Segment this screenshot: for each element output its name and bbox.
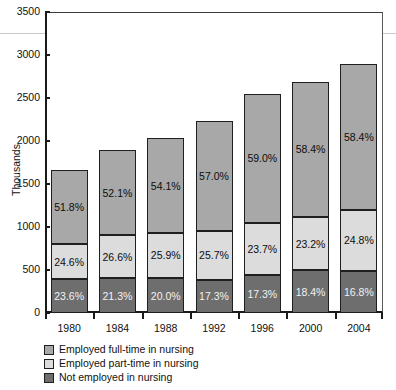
segment-percent-label: 26.6% (103, 251, 133, 263)
bar-segment-not-employed-1980[interactable]: 23.6% (51, 279, 88, 313)
bar-segment-part-time-1984[interactable]: 26.6% (99, 235, 136, 278)
y-tick-label: 1500 (2, 178, 40, 188)
bar-1984[interactable]: 21.3%26.6%52.1% (99, 150, 136, 313)
x-tick-label-2004: 2004 (334, 322, 384, 334)
bar-segment-full-time-1996[interactable]: 59.0% (244, 94, 281, 223)
y-tick-mark (45, 11, 50, 13)
legend-swatch-icon (44, 373, 54, 383)
bar-segment-not-employed-1996[interactable]: 17.3% (244, 275, 281, 313)
legend-label: Employed part-time in nursing (59, 358, 198, 369)
y-tick-mark (45, 183, 50, 185)
segment-percent-label: 24.6% (54, 256, 84, 268)
x-tick-mark (93, 313, 95, 319)
y-tick-label: 3500 (2, 6, 40, 16)
legend-swatch-icon (44, 345, 54, 355)
bar-1996[interactable]: 17.3%23.7%59.0% (244, 94, 281, 313)
bar-segment-not-employed-1992[interactable]: 17.3% (196, 280, 233, 313)
segment-percent-label: 18.4% (296, 286, 326, 298)
bar-segment-part-time-1992[interactable]: 25.7% (196, 231, 233, 280)
bar-segment-full-time-1992[interactable]: 57.0% (196, 121, 233, 230)
chart-legend: Employed full-time in nursingEmployed pa… (44, 343, 198, 385)
x-tick-mark (335, 313, 337, 319)
x-tick-mark (190, 313, 192, 319)
segment-percent-label: 21.3% (103, 290, 133, 302)
legend-label: Employed full-time in nursing (59, 344, 194, 355)
y-tick-label: 2500 (2, 92, 40, 102)
bar-segment-part-time-1980[interactable]: 24.6% (51, 244, 88, 279)
chart-canvas: Thousands 0500100015002000250030003500 2… (0, 0, 396, 390)
bar-segment-full-time-2000[interactable]: 58.4% (292, 82, 329, 217)
segment-percent-label: 16.8% (344, 286, 374, 298)
x-tick-label-1988: 1988 (141, 322, 191, 334)
y-tick-mark (45, 226, 50, 228)
y-tick-mark (45, 54, 50, 56)
bar-1992[interactable]: 17.3%25.7%57.0% (196, 121, 233, 313)
bar-segment-full-time-1984[interactable]: 52.1% (99, 150, 136, 235)
segment-percent-label: 58.4% (296, 143, 326, 155)
segment-percent-label: 17.3% (199, 290, 229, 302)
bar-2004[interactable]: 16.8%24.8%58.4% (340, 64, 377, 313)
y-tick-label: 0 (2, 307, 40, 317)
bar-segment-full-time-2004[interactable]: 58.4% (340, 64, 377, 209)
segment-percent-label: 57.0% (199, 170, 229, 182)
x-tick-label-1992: 1992 (189, 322, 239, 334)
x-tick-mark (286, 313, 288, 319)
bar-segment-full-time-1980[interactable]: 51.8% (51, 170, 88, 244)
bar-1980[interactable]: 23.6%24.6%51.8% (51, 170, 88, 313)
segment-percent-label: 17.3% (247, 288, 277, 300)
x-tick-label-1980: 1980 (44, 322, 94, 334)
x-tick-mark (45, 313, 47, 319)
segment-percent-label: 59.0% (247, 152, 277, 164)
legend-item-0[interactable]: Employed full-time in nursing (44, 343, 198, 356)
y-tick-mark (45, 97, 50, 99)
legend-swatch-icon (44, 359, 54, 369)
y-tick-label: 3000 (2, 49, 40, 59)
segment-percent-label: 23.6% (54, 290, 84, 302)
y-tick-label: 1000 (2, 221, 40, 231)
bar-segment-part-time-2000[interactable]: 23.2% (292, 217, 329, 271)
x-tick-label-1996: 1996 (237, 322, 287, 334)
legend-label: Not employed in nursing (59, 372, 172, 383)
bar-segment-part-time-2004[interactable]: 24.8% (340, 210, 377, 272)
bar-segment-not-employed-2004[interactable]: 16.8% (340, 271, 377, 313)
segment-percent-label: 20.0% (151, 290, 181, 302)
segment-percent-label: 25.7% (199, 249, 229, 261)
segment-percent-label: 52.1% (103, 187, 133, 199)
x-tick-label-1984: 1984 (92, 322, 142, 334)
bar-1988[interactable]: 20.0%25.9%54.1% (147, 138, 184, 313)
bar-segment-not-employed-1984[interactable]: 21.3% (99, 278, 136, 313)
y-tick-label: 2000 (2, 135, 40, 145)
segment-percent-label: 51.8% (54, 201, 84, 213)
segment-percent-label: 23.7% (247, 243, 277, 255)
segment-percent-label: 25.9% (151, 249, 181, 261)
segment-percent-label: 54.1% (151, 180, 181, 192)
x-tick-label-2000: 2000 (286, 322, 336, 334)
y-tick-mark (45, 140, 50, 142)
bar-segment-not-employed-1988[interactable]: 20.0% (147, 278, 184, 313)
bar-segment-not-employed-2000[interactable]: 18.4% (292, 270, 329, 313)
segment-percent-label: 24.8% (344, 234, 374, 246)
x-tick-mark (238, 313, 240, 319)
segment-percent-label: 23.2% (296, 238, 326, 250)
legend-item-2[interactable]: Not employed in nursing (44, 371, 198, 384)
y-tick-mark (45, 269, 50, 271)
x-tick-mark (381, 313, 383, 319)
legend-item-1[interactable]: Employed part-time in nursing (44, 357, 198, 370)
segment-percent-label: 58.4% (344, 131, 374, 143)
bar-2000[interactable]: 18.4%23.2%58.4% (292, 82, 329, 313)
x-tick-mark (142, 313, 144, 319)
bar-segment-part-time-1988[interactable]: 25.9% (147, 233, 184, 278)
y-tick-label: 500 (2, 264, 40, 274)
bar-segment-full-time-1988[interactable]: 54.1% (147, 138, 184, 232)
bar-segment-part-time-1996[interactable]: 23.7% (244, 223, 281, 275)
